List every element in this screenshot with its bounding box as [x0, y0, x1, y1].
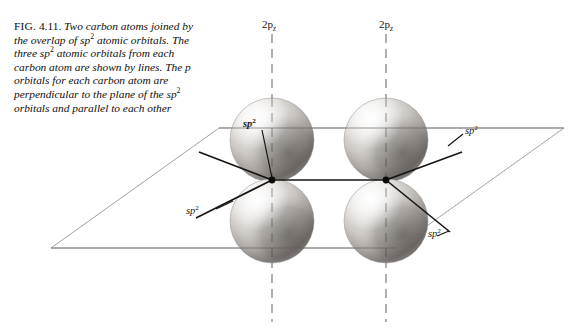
plane-left-edge: [51, 128, 219, 248]
leader-sp2-upper-right: [448, 134, 463, 146]
figure-page: FIG. 4.11. Two carbon atoms joined by th…: [0, 0, 583, 331]
carbon-nucleus-right: [383, 177, 390, 184]
p-lobe-lower-right: [344, 179, 429, 268]
p-lobe-lower-left: [230, 179, 315, 268]
orbital-diagram: [0, 0, 583, 331]
leader-sp2-lower-left: [216, 201, 233, 209]
p-lobe-upper-right: [344, 98, 429, 187]
leader-sp2-lower-right: [437, 231, 449, 236]
p-lobe-upper-left: [230, 98, 315, 187]
p-orbital-spheres: [230, 98, 429, 268]
